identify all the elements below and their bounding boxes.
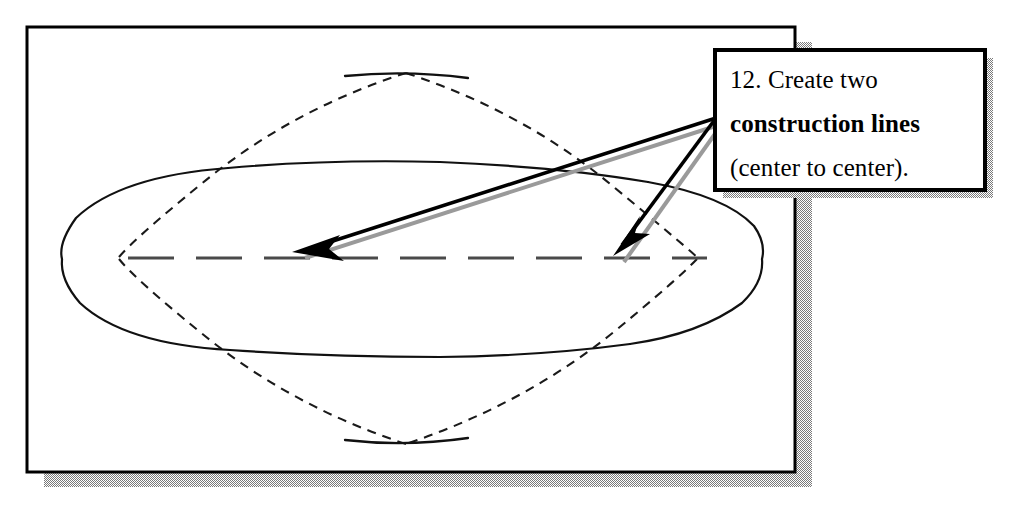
callout-line-3: (center to center). [730, 146, 980, 190]
callout-line-1: 12. Create two [730, 58, 980, 102]
drawing-viewport [27, 27, 795, 472]
figure-page: 12. Create two construction lines (cente… [0, 0, 1013, 511]
instruction-callout-text: 12. Create two construction lines (cente… [730, 58, 980, 190]
callout-line-2-bold: construction lines [730, 102, 980, 146]
